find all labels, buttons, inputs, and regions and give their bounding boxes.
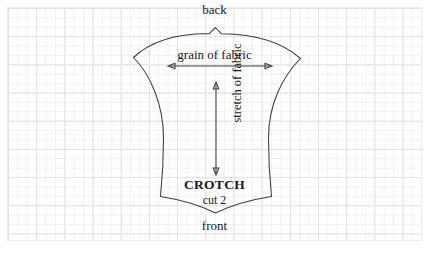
pattern-piece-drawing <box>0 0 429 254</box>
grain-of-fabric-arrow <box>168 63 272 69</box>
grain-of-fabric-label: grain of fabric <box>0 48 429 61</box>
stretch-of-fabric-label: stretch of fabric <box>231 31 245 135</box>
diagram-canvas: back grain of fabric stretch of fabric C… <box>0 0 429 254</box>
crotch-piece-name-label: CROTCH <box>0 178 429 192</box>
back-edge-label: back <box>0 3 429 16</box>
cut-quantity-label: cut 2 <box>0 194 429 206</box>
stretch-of-fabric-arrow <box>213 82 219 175</box>
front-edge-label: front <box>0 219 429 232</box>
